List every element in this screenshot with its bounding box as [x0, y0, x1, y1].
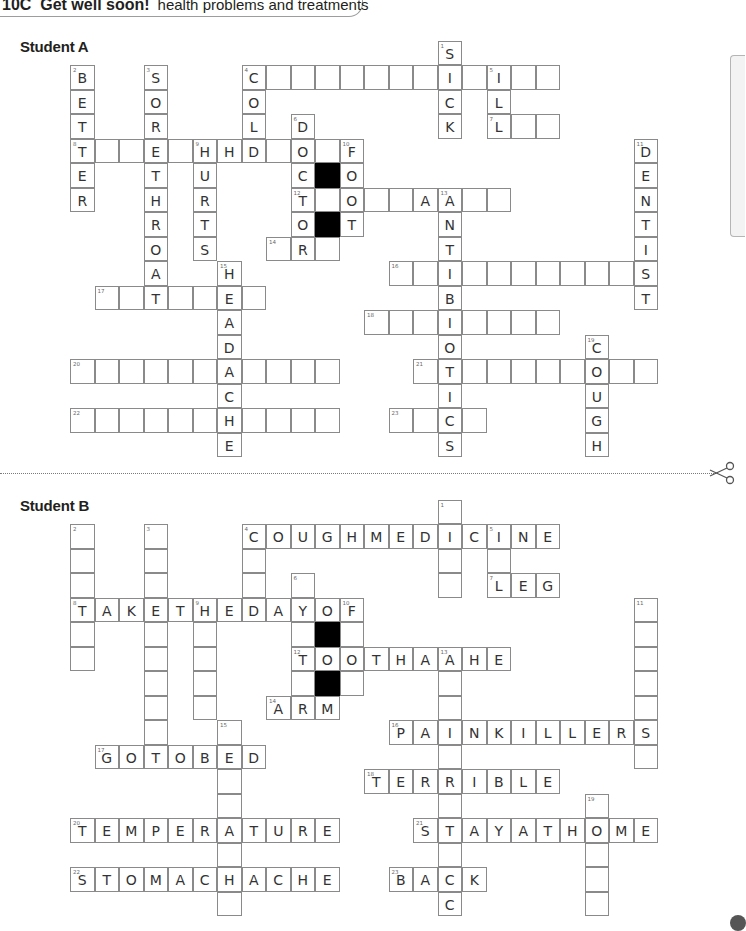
crossword-cell[interactable]: I — [438, 261, 463, 286]
crossword-cell[interactable] — [511, 261, 536, 286]
crossword-cell[interactable]: 19C — [585, 335, 610, 360]
crossword-cell[interactable]: T — [634, 212, 659, 237]
crossword-cell[interactable]: C — [291, 163, 316, 188]
crossword-cell[interactable]: B — [438, 286, 463, 311]
crossword-cell[interactable]: L — [487, 90, 512, 115]
crossword-cell[interactable]: 13A — [438, 647, 463, 672]
crossword-cell[interactable]: 7L — [487, 573, 512, 598]
crossword-cell[interactable]: E — [217, 286, 242, 311]
crossword-cell[interactable]: E — [511, 573, 536, 598]
crossword-cell[interactable]: T — [536, 818, 561, 843]
crossword-cell[interactable] — [413, 261, 438, 286]
crossword-cell[interactable]: O — [144, 237, 169, 262]
crossword-cell[interactable] — [413, 65, 438, 90]
crossword-cell[interactable] — [168, 408, 193, 433]
crossword-cell[interactable]: C — [462, 524, 487, 549]
crossword-cell[interactable]: O — [315, 598, 340, 623]
crossword-cell[interactable] — [144, 549, 169, 574]
crossword-cell[interactable] — [438, 573, 463, 598]
crossword-cell[interactable]: 23 — [389, 408, 414, 433]
crossword-cell[interactable]: R — [144, 114, 169, 139]
crossword-cell[interactable] — [389, 310, 414, 335]
crossword-cell[interactable] — [266, 65, 291, 90]
crossword-cell[interactable]: K — [487, 720, 512, 745]
crossword-cell[interactable] — [266, 408, 291, 433]
crossword-cell[interactable]: H — [389, 647, 414, 672]
crossword-cell[interactable]: S — [634, 720, 659, 745]
crossword-cell[interactable]: 8T — [70, 598, 95, 623]
crossword-cell[interactable] — [242, 573, 267, 598]
crossword-cell[interactable] — [536, 359, 561, 384]
crossword-cell[interactable]: G — [315, 524, 340, 549]
crossword-cell[interactable]: 13A — [438, 188, 463, 213]
crossword-cell[interactable] — [144, 622, 169, 647]
crossword-cell[interactable] — [217, 892, 242, 917]
crossword-cell[interactable]: T — [95, 867, 120, 892]
crossword-cell[interactable]: H — [217, 139, 242, 164]
crossword-cell[interactable] — [242, 359, 267, 384]
crossword-cell[interactable]: R — [70, 188, 95, 213]
crossword-cell[interactable] — [193, 408, 218, 433]
crossword-cell[interactable]: K — [119, 598, 144, 623]
crossword-cell[interactable] — [70, 622, 95, 647]
crossword-cell[interactable]: E — [536, 524, 561, 549]
crossword-cell[interactable] — [217, 843, 242, 868]
crossword-cell[interactable]: O — [340, 163, 365, 188]
crossword-cell[interactable]: E — [315, 818, 340, 843]
crossword-cell[interactable]: T — [144, 286, 169, 311]
crossword-cell[interactable]: 16P — [389, 720, 414, 745]
crossword-cell[interactable]: E — [168, 818, 193, 843]
crossword-cell[interactable] — [438, 745, 463, 770]
crossword-cell[interactable]: G — [585, 408, 610, 433]
crossword-cell[interactable] — [536, 114, 561, 139]
crossword-cell[interactable]: I — [438, 310, 463, 335]
crossword-cell[interactable] — [242, 408, 267, 433]
crossword-cell[interactable] — [144, 573, 169, 598]
crossword-cell[interactable]: R — [291, 237, 316, 262]
crossword-cell[interactable]: I — [438, 384, 463, 409]
crossword-cell[interactable] — [340, 671, 365, 696]
crossword-cell[interactable] — [217, 769, 242, 794]
crossword-cell[interactable]: E — [217, 433, 242, 458]
crossword-cell[interactable] — [315, 139, 340, 164]
crossword-cell[interactable]: T — [438, 237, 463, 262]
crossword-cell[interactable]: 10F — [340, 139, 365, 164]
crossword-cell[interactable] — [119, 408, 144, 433]
crossword-cell[interactable] — [634, 359, 659, 384]
crossword-cell[interactable]: O — [340, 647, 365, 672]
crossword-cell[interactable]: O — [340, 188, 365, 213]
crossword-cell[interactable]: C — [266, 867, 291, 892]
crossword-cell[interactable]: H — [585, 433, 610, 458]
crossword-cell[interactable]: 22S — [70, 867, 95, 892]
crossword-cell[interactable] — [193, 696, 218, 721]
crossword-cell[interactable]: 2 — [70, 524, 95, 549]
crossword-cell[interactable]: 23B — [389, 867, 414, 892]
crossword-cell[interactable] — [144, 720, 169, 745]
crossword-cell[interactable] — [119, 286, 144, 311]
crossword-cell[interactable]: C — [438, 90, 463, 115]
crossword-cell[interactable] — [291, 65, 316, 90]
crossword-cell[interactable]: 15H — [217, 261, 242, 286]
crossword-cell[interactable] — [634, 745, 659, 770]
crossword-cell[interactable] — [487, 359, 512, 384]
crossword-cell[interactable] — [413, 408, 438, 433]
crossword-cell[interactable]: S — [634, 261, 659, 286]
crossword-cell[interactable]: U — [291, 524, 316, 549]
crossword-cell[interactable] — [585, 261, 610, 286]
crossword-cell[interactable] — [413, 310, 438, 335]
crossword-cell[interactable] — [168, 286, 193, 311]
crossword-cell[interactable]: E — [585, 720, 610, 745]
crossword-cell[interactable]: 10F — [340, 598, 365, 623]
crossword-cell[interactable]: 17G — [95, 745, 120, 770]
crossword-cell[interactable]: O — [242, 90, 267, 115]
crossword-cell[interactable]: I — [634, 237, 659, 262]
crossword-cell[interactable]: P — [144, 818, 169, 843]
crossword-cell[interactable]: L — [242, 114, 267, 139]
crossword-cell[interactable] — [168, 139, 193, 164]
crossword-cell[interactable]: I — [438, 65, 463, 90]
crossword-cell[interactable]: E — [634, 163, 659, 188]
crossword-cell[interactable] — [634, 622, 659, 647]
crossword-cell[interactable]: T — [340, 212, 365, 237]
crossword-cell[interactable]: U — [585, 384, 610, 409]
crossword-cell[interactable] — [585, 867, 610, 892]
